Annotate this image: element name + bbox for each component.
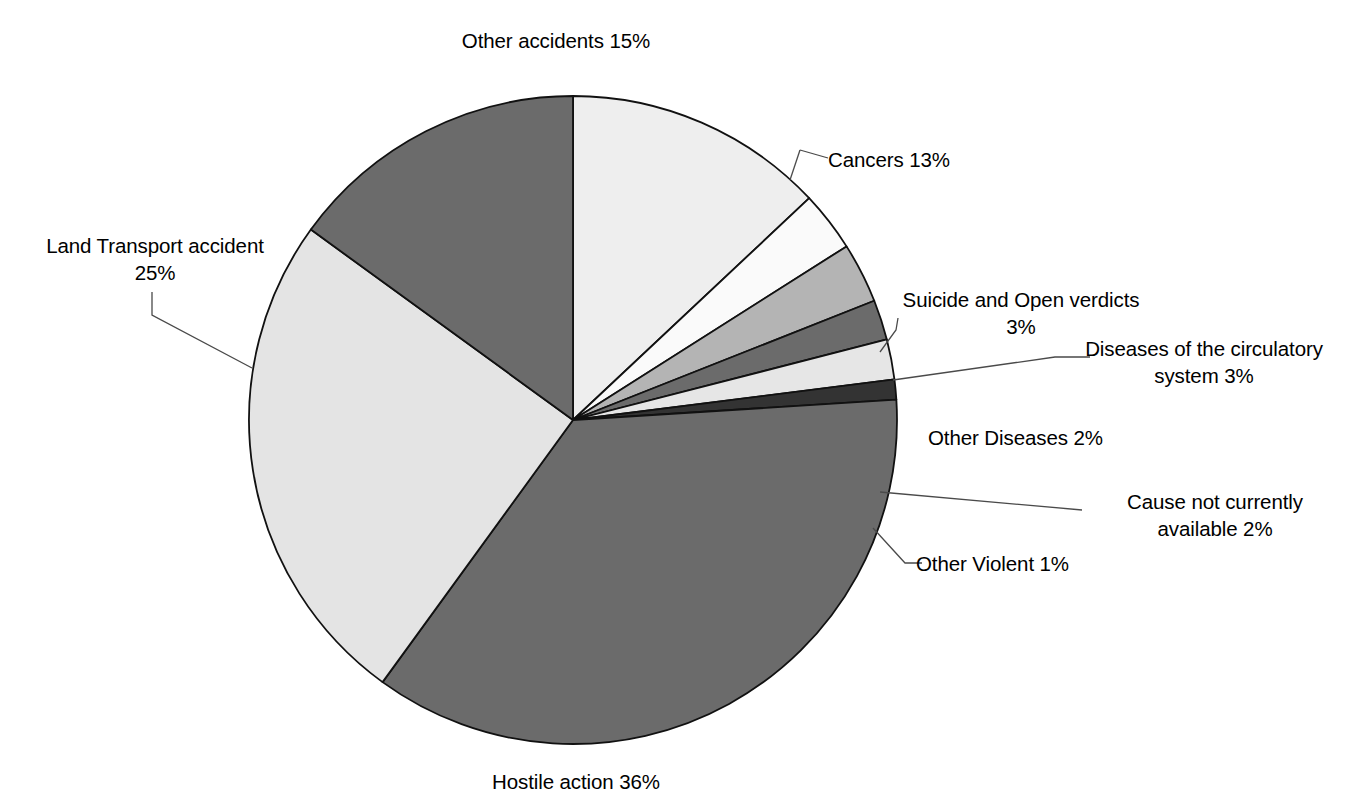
leader-line-cancers-hook xyxy=(790,150,800,180)
leader-line-cause-not-available xyxy=(880,492,1082,510)
slice-label-land-transport-accident: Land Transport accident 25% xyxy=(20,232,290,286)
pie-chart-canvas: Cancers 13%Suicide and Open verdicts 3%D… xyxy=(0,0,1351,807)
leader-line-land-transport xyxy=(152,292,252,368)
slice-label-cancers: Cancers 13% xyxy=(828,146,1088,173)
pie-slice-group: Cancers 13%Suicide and Open verdicts 3%D… xyxy=(249,96,897,744)
slice-label-other-diseases: Other Diseases 2% xyxy=(928,424,1198,451)
pie-chart: Cancers 13%Suicide and Open verdicts 3%D… xyxy=(0,0,1351,807)
slice-label-other-violent: Other Violent 1% xyxy=(916,550,1166,577)
slice-label-cause-not-currently-available: Cause not currently available 2% xyxy=(1090,488,1340,542)
leader-line-other-violent xyxy=(873,528,922,563)
leader-line-cancers xyxy=(800,150,828,158)
slice-label-hostile-action: Hostile action 36% xyxy=(436,768,716,795)
slice-label-suicide-and-open-verdicts: Suicide and Open verdicts 3% xyxy=(876,286,1166,340)
slice-label-diseases-of-the-circulatory-system: Diseases of the circulatory system 3% xyxy=(1060,335,1348,389)
slice-label-other-accidents: Other accidents 15% xyxy=(416,27,696,54)
